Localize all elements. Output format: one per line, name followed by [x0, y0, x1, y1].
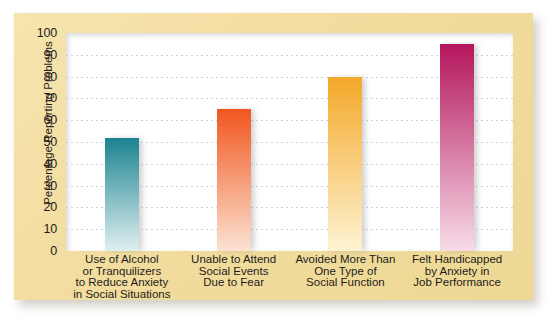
bar-slot: [217, 33, 251, 251]
y-axis-tick-labels: 1009080706050403020100: [14, 33, 62, 251]
y-axis-tick-70: 70: [43, 91, 57, 105]
y-axis-tick-10: 10: [43, 222, 57, 236]
bar[interactable]: [105, 138, 139, 251]
x-axis-label-line: in Social Situations: [66, 289, 178, 301]
y-axis-tick-60: 60: [43, 113, 57, 127]
y-axis-tick-90: 90: [43, 48, 57, 62]
y-axis-tick-50: 50: [43, 135, 57, 149]
y-axis-tick-0: 0: [50, 244, 57, 258]
chart-panel: Percentage Reporting Problems 1009080706…: [14, 13, 533, 300]
x-axis-label-line: Due to Fear: [178, 277, 290, 289]
bar-slot: [440, 33, 474, 251]
x-axis-label-line: Avoided More Than: [290, 254, 402, 266]
bar[interactable]: [217, 109, 251, 251]
x-axis-label-line: Job Performance: [401, 277, 513, 289]
x-axis-label: Avoided More ThanOne Type ofSocial Funct…: [290, 254, 402, 289]
plot-area: [66, 33, 513, 251]
bar[interactable]: [328, 77, 362, 251]
bar-series: [66, 33, 513, 251]
x-axis-label-line: Use of Alcohol: [66, 254, 178, 266]
y-axis-tick-20: 20: [43, 200, 57, 214]
bar-slot: [328, 33, 362, 251]
x-axis-category-labels: Use of Alcoholor Tranquilizersto Reduce …: [66, 254, 513, 300]
x-axis-label: Unable to AttendSocial EventsDue to Fear: [178, 254, 290, 289]
x-axis-label-line: Unable to Attend: [178, 254, 290, 266]
x-axis-label: Use of Alcoholor Tranquilizersto Reduce …: [66, 254, 178, 300]
x-axis-label: Felt Handicappedby Anxiety inJob Perform…: [401, 254, 513, 289]
y-axis-tick-30: 30: [43, 179, 57, 193]
bar-slot: [105, 33, 139, 251]
y-axis-tick-100: 100: [37, 26, 57, 40]
x-axis-label-line: Felt Handicapped: [401, 254, 513, 266]
x-axis-label-line: Social Function: [290, 277, 402, 289]
bar[interactable]: [440, 44, 474, 251]
y-axis-tick-40: 40: [43, 157, 57, 171]
y-axis-tick-80: 80: [43, 70, 57, 84]
